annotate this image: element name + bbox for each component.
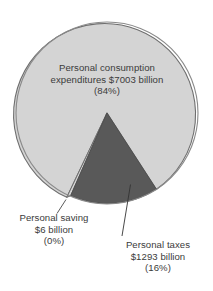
leader-line-personal-saving: [57, 200, 66, 214]
pie-chart-figure: Personal consumption expenditures $7003 …: [0, 0, 213, 291]
pie-chart-svg: [0, 0, 213, 291]
